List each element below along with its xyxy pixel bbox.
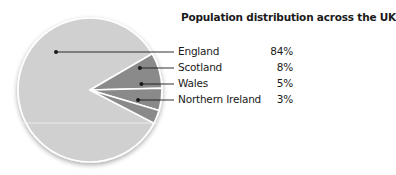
legend-value: 5% <box>277 77 293 89</box>
legend-item-scotland: Scotland 8% <box>178 61 293 75</box>
legend-item-england: England 84% <box>178 45 293 59</box>
legend-value: 3% <box>277 93 293 105</box>
legend-label: Wales <box>178 77 208 89</box>
legend-label: England <box>178 45 219 57</box>
legend-label: Scotland <box>178 61 222 73</box>
legend-item-northern-ireland: Northern Ireland 3% <box>178 93 293 107</box>
legend-value: 8% <box>277 61 293 73</box>
legend-item-wales: Wales 5% <box>178 77 293 91</box>
legend-label: Northern Ireland <box>178 93 261 105</box>
legend-value: 84% <box>270 45 293 57</box>
chart-title: Population distribution across the UK <box>181 11 396 23</box>
